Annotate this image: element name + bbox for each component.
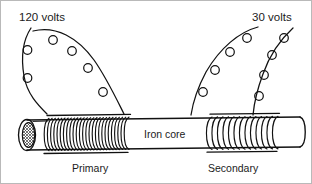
transformer-figure: 120 volts 30 volts Iron core Primary Sec… xyxy=(0,0,312,184)
primary-lead-wire-outer xyxy=(33,30,124,114)
secondary-turn xyxy=(256,117,262,150)
transformer-diagram-canvas: 120 volts 30 volts Iron core Primary Sec… xyxy=(0,0,312,184)
secondary-turn xyxy=(228,117,234,150)
secondary-coil-top-envelope xyxy=(210,113,280,114)
secondary-turn xyxy=(206,117,212,150)
primary-lead-loop xyxy=(84,64,93,73)
input-voltage-label: 120 volts xyxy=(19,11,65,23)
primary-lead-wires xyxy=(23,28,124,114)
secondary-coil-bottom-envelope xyxy=(207,151,277,152)
core-right-cap xyxy=(300,117,305,147)
secondary-coil xyxy=(206,113,279,152)
secondary-turn xyxy=(223,117,229,150)
primary-coil-top-envelope xyxy=(47,114,131,115)
primary-lead-loop xyxy=(99,88,108,97)
secondary-turn xyxy=(261,117,267,150)
secondary-lead-wire-left xyxy=(191,27,258,115)
secondary-turn xyxy=(272,116,278,148)
secondary-lead-loop xyxy=(226,48,235,57)
primary-lead-loop xyxy=(23,46,32,55)
secondary-lead-loop xyxy=(243,34,252,43)
primary-lead-loop xyxy=(49,36,58,45)
secondary-turn xyxy=(212,117,218,149)
output-voltage-label: 30 volts xyxy=(252,11,292,23)
secondary-lead-wires xyxy=(191,27,293,115)
secondary-turn xyxy=(245,117,251,150)
secondary-label: Secondary xyxy=(208,162,259,174)
secondary-lead-loop xyxy=(199,88,208,97)
secondary-turn xyxy=(217,117,223,149)
secondary-turn xyxy=(267,116,273,148)
core-left-cross-section xyxy=(22,123,34,148)
secondary-turn xyxy=(239,117,245,150)
primary-coil-bottom-envelope xyxy=(44,152,128,153)
primary-label: Primary xyxy=(72,162,109,174)
primary-lead-loop xyxy=(68,47,77,56)
primary-coil xyxy=(44,114,131,153)
primary-lead-wire-inner xyxy=(23,28,47,114)
iron-core-label: Iron core xyxy=(144,128,186,140)
secondary-turn xyxy=(234,117,240,150)
secondary-lead-loop xyxy=(211,66,220,75)
secondary-turn xyxy=(250,117,256,150)
primary-turn xyxy=(124,117,129,149)
